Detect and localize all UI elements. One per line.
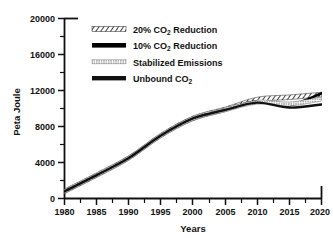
y-tick-label: 12000 bbox=[30, 86, 55, 96]
x-tick-label: 2005 bbox=[215, 207, 235, 217]
legend-swatch-unbound-co2 bbox=[92, 76, 126, 80]
x-tick-label: 1990 bbox=[118, 207, 138, 217]
legend-label-10pct-reduction: 10% CO2 Reduction bbox=[133, 41, 217, 52]
x-tick-label: 1985 bbox=[86, 207, 106, 217]
y-tick-label: 8000 bbox=[35, 122, 55, 132]
y-tick-label: 16000 bbox=[30, 50, 55, 60]
line-chart: 20000 16000 12000 8000 4000 0 1980 1985 … bbox=[0, 0, 333, 238]
y-tick-label: 20000 bbox=[30, 14, 55, 24]
x-tick-label: 2000 bbox=[182, 207, 202, 217]
y-tick-label: 0 bbox=[50, 194, 55, 204]
x-tick-label: 1995 bbox=[150, 207, 170, 217]
x-tick-label: 1980 bbox=[54, 207, 74, 217]
legend-label-stabilized-emissions: Stabilized Emissions bbox=[133, 58, 223, 68]
legend-swatch-20pct-reduction bbox=[92, 27, 126, 32]
y-axis-title: Peta Joule bbox=[11, 88, 22, 136]
x-tick-label: 2010 bbox=[247, 207, 267, 217]
x-tick-label: 2015 bbox=[279, 207, 299, 217]
legend-swatch-stabilized-emissions bbox=[92, 60, 126, 64]
chart-figure: 20000 16000 12000 8000 4000 0 1980 1985 … bbox=[0, 0, 333, 238]
x-axis-title: Years bbox=[180, 223, 205, 234]
legend-label-unbound-co2: Unbound CO2 bbox=[133, 74, 193, 85]
y-tick-label: 4000 bbox=[35, 158, 55, 168]
x-tick-label: 2020 bbox=[310, 207, 330, 217]
legend-swatch-10pct-reduction bbox=[92, 43, 126, 48]
x-tick-labels: 1980 1985 1990 1995 2000 2005 2010 2015 … bbox=[54, 207, 330, 217]
legend-label-20pct-reduction: 20% CO2 Reduction bbox=[133, 25, 217, 36]
